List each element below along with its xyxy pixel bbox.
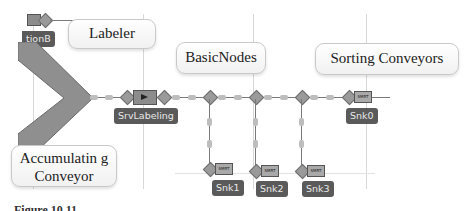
server-label: SrvLabeling	[114, 108, 178, 124]
sort-conveyor-2	[255, 99, 256, 165]
server-output-node[interactable]	[157, 90, 173, 106]
model-canvas[interactable]: tionB SrvLabeling SMRT Snk0 SMRT Snk1 SM…	[0, 0, 467, 211]
arrow-down-icon	[207, 140, 212, 148]
callout-basic-nodes: BasicNodes	[176, 42, 266, 74]
arrow-right-icon	[90, 95, 98, 100]
arrow-right-icon	[188, 95, 196, 100]
sink3-label: Snk3	[302, 181, 334, 197]
arrow-down-icon	[207, 118, 212, 126]
basic-node-2[interactable]	[249, 90, 265, 106]
arrow-down-icon	[253, 118, 258, 126]
callout-accumulating-conveyor: Accumulatin g Conveyor	[11, 145, 117, 187]
arrow-down-icon	[299, 140, 304, 148]
arrow-right-icon	[280, 95, 288, 100]
arrow-right-icon	[105, 95, 113, 100]
sink2-label: Snk2	[256, 181, 288, 197]
arrow-down-icon	[299, 118, 304, 126]
callout-sorting-conveyors: Sorting Conveyors	[315, 43, 459, 75]
figure-caption: Figure 10.11 ...	[14, 203, 89, 211]
arrow-right-icon	[310, 95, 318, 100]
sort-conveyor-3	[301, 99, 302, 165]
sink-snk3[interactable]: SMRT	[307, 165, 325, 177]
arrow-right-icon	[218, 95, 226, 100]
arrow-right-icon	[172, 95, 180, 100]
arrow-right-icon	[326, 95, 334, 100]
basic-node-3[interactable]	[295, 90, 311, 106]
callout-accumulating-text: Accumulatin g Conveyor	[19, 149, 109, 185]
sink-snk1[interactable]: SMRT	[215, 163, 233, 175]
sink-snk0[interactable]: SMRT	[354, 91, 372, 103]
sink-snk2[interactable]: SMRT	[261, 165, 279, 177]
sink0-label: Snk0	[346, 108, 378, 124]
basic-node-1[interactable]	[203, 90, 219, 106]
arrow-right-icon	[264, 95, 272, 100]
server-srvlabeling[interactable]	[133, 90, 157, 105]
sink1-label: Snk1	[212, 180, 244, 196]
callout-labeler: Labeler	[68, 19, 156, 49]
arrow-down-icon	[253, 140, 258, 148]
play-icon	[141, 94, 148, 100]
arrow-right-icon	[234, 95, 242, 100]
sort-conveyor-1	[209, 99, 210, 165]
